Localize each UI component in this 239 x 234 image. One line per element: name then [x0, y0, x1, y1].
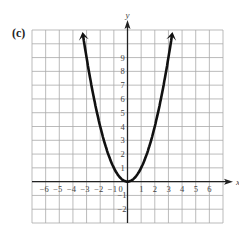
x-tick-label: −5	[53, 184, 62, 194]
x-tick-label: −6	[40, 184, 49, 194]
y-axis-label: y	[125, 10, 130, 20]
y-tick-label: 5	[121, 108, 125, 118]
y-tick-label: 9	[121, 53, 125, 63]
y-tick-label: 2	[121, 149, 125, 159]
x-tick-label: 1	[139, 184, 143, 194]
x-axis-label: x	[235, 177, 239, 187]
y-tick-label: 7	[121, 80, 125, 90]
x-tick-label: 2	[153, 184, 157, 194]
y-tick-label: 1	[121, 163, 125, 173]
x-tick-label: 5	[194, 184, 198, 194]
y-tick-label: 3	[121, 135, 125, 145]
y-tick-label: −2	[118, 204, 127, 214]
x-tick-label: 6	[207, 184, 211, 194]
x-tick-label: 3	[166, 184, 170, 194]
y-tick-label: 6	[121, 94, 125, 104]
x-tick-label: −1	[108, 184, 117, 194]
x-tick-label: −3	[81, 184, 90, 194]
y-tick-label: −1	[118, 190, 127, 200]
x-tick-label: 4	[180, 184, 185, 194]
x-tick-label: −4	[67, 184, 77, 194]
y-tick-label: 8	[121, 66, 125, 76]
x-tick-label: −2	[94, 184, 103, 194]
parabola-chart: xy−6−5−4−3−2−10123456−2−1123456789	[0, 0, 239, 234]
